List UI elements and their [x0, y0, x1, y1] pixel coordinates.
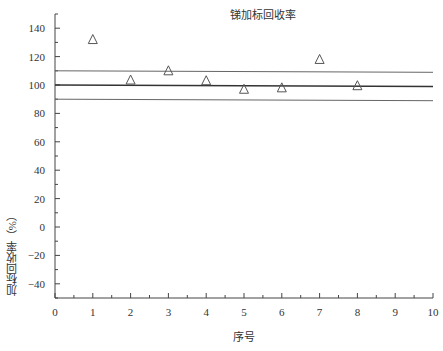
x-tick-label: 7	[317, 306, 323, 318]
x-tick-label: 8	[355, 306, 361, 318]
x-tick-label: 3	[166, 306, 172, 318]
axes: −40−20020406080100120140012345678910	[28, 14, 439, 318]
x-axis-label: 序号	[233, 328, 255, 344]
y-tick-label: −40	[28, 278, 46, 290]
y-tick-label: 20	[34, 193, 46, 205]
reference-lines	[55, 71, 433, 101]
x-tick-label: 10	[428, 306, 440, 318]
y-tick-label: 120	[29, 51, 46, 63]
x-tick-label: 1	[90, 306, 96, 318]
x-tick-label: 6	[279, 306, 285, 318]
triangle-marker	[164, 66, 173, 75]
triangle-marker	[126, 75, 135, 84]
triangle-marker	[88, 35, 97, 44]
y-tick-label: 0	[40, 221, 46, 233]
x-tick-label: 2	[128, 306, 134, 318]
triangle-marker	[202, 76, 211, 85]
data-points	[88, 35, 362, 94]
reference-line-lower-limit	[55, 99, 433, 101]
y-tick-label: 140	[29, 22, 46, 34]
y-tick-label: −20	[28, 249, 46, 261]
x-tick-label: 5	[241, 306, 247, 318]
chart: −40−20020406080100120140012345678910	[0, 0, 443, 351]
x-tick-label: 4	[203, 306, 209, 318]
y-tick-label: 100	[29, 79, 46, 91]
y-axis-label: 加标回收率（%）	[4, 210, 20, 296]
chart-title: 锑加标回收率	[230, 6, 296, 22]
triangle-marker	[353, 81, 362, 90]
reference-line-upper-limit	[55, 71, 433, 73]
triangle-marker	[315, 54, 324, 63]
y-tick-label: 80	[34, 107, 46, 119]
triangle-marker	[277, 83, 286, 92]
x-tick-label: 9	[392, 306, 398, 318]
y-tick-label: 40	[34, 164, 46, 176]
x-tick-label: 0	[52, 306, 58, 318]
y-tick-label: 60	[34, 136, 46, 148]
